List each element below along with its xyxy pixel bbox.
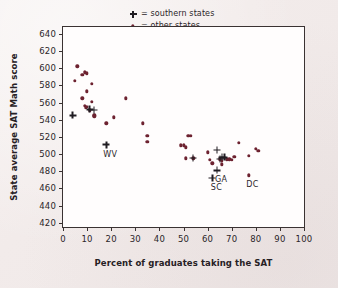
x-axis-tick [256,227,257,231]
data-point-other [146,140,149,143]
y-axis-tick-label: 520 [39,132,56,142]
data-point-other [189,134,192,137]
y-axis-tick-label: 440 [39,201,56,211]
y-axis-tick [59,34,63,35]
data-point-other [146,134,149,137]
data-point-southern [221,154,228,161]
data-point-other [141,121,144,124]
x-axis-tick [184,227,185,231]
x-axis-tick [280,227,281,231]
y-axis-tick-label: 460 [39,183,56,193]
y-axis-tick [59,51,63,52]
data-point-other [90,100,93,103]
y-axis-tick [59,171,63,172]
y-axis-tick [59,154,63,155]
y-axis-tick-label: 600 [39,63,56,73]
y-axis-tick [59,103,63,104]
legend-item-southern-states: = southern states [128,8,214,20]
data-point-other [230,158,233,161]
data-point-southern [103,141,110,148]
data-point-other [73,79,76,82]
x-axis-tick-label: 50 [178,234,189,244]
y-axis-tick [59,85,63,86]
data-point-other [85,90,88,93]
y-axis-tick [59,137,63,138]
x-axis-tick [135,227,136,231]
x-axis-tick [159,227,160,231]
plot-area: WVSCGADC [63,27,304,227]
y-axis-tick [59,188,63,189]
data-point-label-ga: GA [215,175,227,184]
data-point-label-dc: DC [246,180,259,189]
y-axis-tick-label: 500 [39,149,56,159]
data-point-other [237,141,240,144]
data-point-other [124,97,127,100]
y-axis-tick-label: 420 [39,218,56,228]
x-axis-tick [232,227,233,231]
y-axis-tick-label: 620 [39,46,56,56]
data-point-southern [69,112,76,119]
y-axis-title-text: State average SAT Math score [9,53,19,200]
y-axis-tick [59,68,63,69]
x-axis-tick-label: 70 [226,234,237,244]
data-point-other [206,151,209,154]
plus-marker-icon [128,9,138,19]
x-axis-tick [304,227,305,231]
data-point-other [112,115,115,118]
x-axis-tick-label: 100 [296,234,313,244]
x-axis-title: Percent of graduates taking the SAT [62,258,305,268]
x-axis-tick-label: 30 [130,234,141,244]
y-axis-tick-label: 640 [39,29,56,39]
y-axis-tick [59,120,63,121]
legend-label-southern-states: = southern states [141,8,214,20]
data-point-other [93,115,96,118]
data-point-other [184,145,187,148]
x-axis-tick [87,227,88,231]
plot-frame: WVSCGADC 4204404604805005205405605806006… [62,26,305,228]
data-point-other [257,149,260,152]
y-axis-tick [59,223,63,224]
x-axis-tick-label: 20 [106,234,117,244]
x-axis-tick-label: 80 [250,234,261,244]
y-axis-title: State average SAT Math score [8,26,20,228]
y-axis-tick-label: 580 [39,80,56,90]
data-point-southern [214,167,221,174]
data-point-other [90,82,93,85]
x-axis-tick [63,227,64,231]
data-point-other [211,162,214,165]
data-point-southern [214,146,221,153]
data-point-other [184,157,187,160]
data-point-other [85,72,88,75]
data-point-southern [91,107,98,114]
data-point-other [105,121,108,124]
data-point-other [220,163,223,166]
chart-page: State average SAT Math score Percent of … [0,0,338,288]
data-point-other [81,73,84,76]
data-point-dc [247,174,250,177]
x-axis-tick [111,227,112,231]
data-point-other [232,155,235,158]
x-axis-tick-label: 0 [60,234,66,244]
y-axis-tick [59,206,63,207]
x-axis-tick-label: 10 [81,234,92,244]
x-axis-tick-label: 90 [274,234,285,244]
data-point-other [76,65,79,68]
y-axis-tick-label: 540 [39,115,56,125]
y-axis-tick-label: 480 [39,166,56,176]
x-axis-tick-label: 60 [202,234,213,244]
x-axis-tick-label: 40 [154,234,165,244]
data-point-southern [190,155,197,162]
data-point-other [81,97,84,100]
data-point-other [247,154,250,157]
y-axis-tick-label: 560 [39,98,56,108]
x-axis-tick [208,227,209,231]
data-point-label-sc: SC [211,183,222,192]
data-point-label-wv: WV [103,150,117,159]
